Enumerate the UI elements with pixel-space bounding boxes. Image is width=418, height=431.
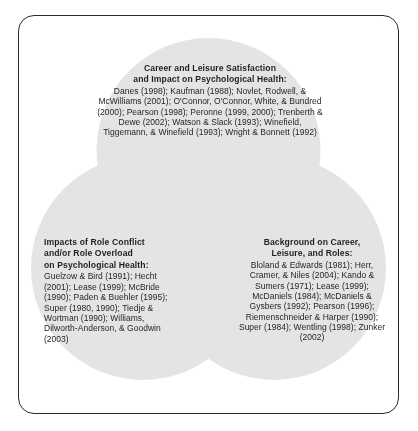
venn-diagram-figure: Career and Leisure Satisfaction and Impa… — [0, 0, 418, 431]
venn-label-top-heading-line-2: and Impact on Psychological Health: — [96, 74, 324, 84]
venn-label-top-heading-line-1: Career and Leisure Satisfaction — [96, 63, 324, 73]
venn-label-right-heading-line-1: Background on Career, — [238, 237, 386, 247]
venn-label-right: Background on Career, Leisure, and Roles… — [238, 237, 386, 343]
venn-label-top-citations: Danes (1998); Kaufman (1988); Novlet, Ro… — [96, 86, 324, 138]
venn-label-right-heading-line-2: Leisure, and Roles: — [238, 248, 386, 258]
venn-label-left-heading-line-3: on Psychological Health: — [44, 260, 168, 270]
venn-label-top: Career and Leisure Satisfaction and Impa… — [96, 63, 324, 138]
venn-label-right-citations: Bloland & Edwards (1981); Herr, Cramer, … — [238, 260, 386, 343]
venn-label-left-heading-line-1: Impacts of Role Conflict — [44, 237, 168, 247]
venn-label-left-citations: Guelzow & Bird (1991); Hecht (2001); Lea… — [44, 271, 168, 344]
venn-label-left-heading-line-2: and/or Role Overload — [44, 248, 168, 258]
venn-label-left: Impacts of Role Conflict and/or Role Ove… — [44, 237, 168, 344]
